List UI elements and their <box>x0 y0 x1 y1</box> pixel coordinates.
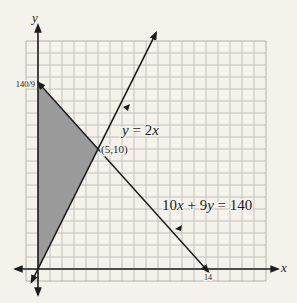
eq2-plus-9: + 9 <box>184 197 207 213</box>
y-intercept-label: 140/9 <box>16 79 35 89</box>
shaded-feasible-region <box>38 82 98 269</box>
eq1-var-x: x <box>151 122 159 138</box>
eq1-var-y: y <box>120 122 129 138</box>
eq1-mid: = 2 <box>129 122 152 138</box>
y-axis-label: y <box>30 10 38 25</box>
eq2-var-y: y <box>205 197 214 213</box>
x-intercept-label: 14 <box>204 273 212 282</box>
direction-arrow-icon <box>175 225 182 231</box>
direction-arrow-icon <box>123 104 130 111</box>
x-axis-label: x <box>280 260 287 275</box>
equation-label-10x-9y-140: 10x + 9y = 140 <box>162 197 252 213</box>
equation-label-y-2x: y = 2x <box>120 122 159 138</box>
linear-inequality-graph: y x 140/9 (5,10) 14 y = 2x 10x + 9y = 14… <box>0 0 297 303</box>
eq2-coef-10: 10 <box>162 197 177 213</box>
eq2-equals-140: = 140 <box>214 197 252 213</box>
intersection-label: (5,10) <box>101 143 128 156</box>
